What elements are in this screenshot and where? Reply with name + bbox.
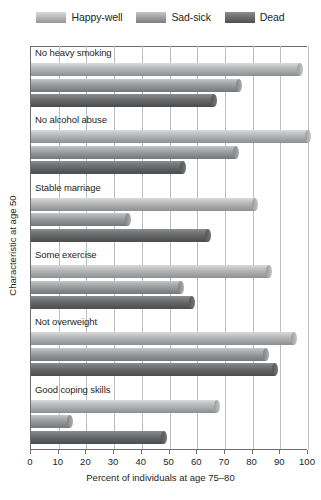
x-tick-label: 20 bbox=[80, 456, 91, 467]
bar-body bbox=[31, 281, 181, 294]
bar-end-cap bbox=[236, 79, 242, 92]
legend-swatch-icon bbox=[225, 12, 255, 23]
bar-end-cap bbox=[305, 130, 311, 143]
legend-label: Dead bbox=[260, 11, 285, 23]
x-tick-label: 90 bbox=[274, 456, 285, 467]
category-label: No heavy smoking bbox=[35, 46, 112, 60]
bar-group: Stable marriage bbox=[31, 181, 307, 248]
bar-group: No heavy smoking bbox=[31, 46, 307, 113]
bar-body bbox=[31, 130, 308, 143]
x-tick-label: 100 bbox=[299, 456, 315, 467]
bar-dead bbox=[31, 94, 214, 107]
bar-body bbox=[31, 79, 239, 92]
x-tick-mark bbox=[169, 450, 170, 454]
bar-body bbox=[31, 198, 255, 211]
bar-body bbox=[31, 348, 266, 361]
bar-body bbox=[31, 229, 208, 242]
bar-group: No alcohol abuse bbox=[31, 113, 307, 180]
x-tick-label: 70 bbox=[219, 456, 230, 467]
legend-entry-happy-well: Happy-well bbox=[36, 11, 122, 23]
bar-body bbox=[31, 63, 300, 76]
bar-body bbox=[31, 265, 269, 278]
bar-body bbox=[31, 415, 70, 428]
bar-sad-sick bbox=[31, 281, 181, 294]
bar-happy-well bbox=[31, 198, 255, 211]
bar-dead bbox=[31, 296, 192, 309]
chart-legend: Happy-well Sad-sick Dead bbox=[0, 0, 321, 34]
bar-sad-sick bbox=[31, 348, 266, 361]
bar-dead bbox=[31, 161, 183, 174]
bar-sad-sick bbox=[31, 146, 236, 159]
bar-body bbox=[31, 332, 294, 345]
x-tick-mark bbox=[279, 450, 280, 454]
bar-body bbox=[31, 213, 128, 226]
bar-sad-sick bbox=[31, 79, 239, 92]
bar-sad-sick bbox=[31, 415, 70, 428]
bar-end-cap bbox=[178, 281, 184, 294]
bar-happy-well bbox=[31, 332, 294, 345]
bar-end-cap bbox=[297, 63, 303, 76]
x-tick-label: 60 bbox=[191, 456, 202, 467]
bar-dead bbox=[31, 431, 164, 444]
legend-label: Happy-well bbox=[71, 11, 122, 23]
x-tick-mark bbox=[224, 450, 225, 454]
gridline bbox=[308, 46, 309, 450]
bar-end-cap bbox=[272, 363, 278, 376]
x-tick-mark bbox=[58, 450, 59, 454]
x-tick-mark bbox=[252, 450, 253, 454]
bar-end-cap bbox=[189, 296, 195, 309]
bar-sad-sick bbox=[31, 213, 128, 226]
bar-end-cap bbox=[125, 213, 131, 226]
bar-end-cap bbox=[180, 161, 186, 174]
bar-group: Some exercise bbox=[31, 248, 307, 315]
bar-end-cap bbox=[214, 400, 220, 413]
legend-entry-sad-sick: Sad-sick bbox=[136, 11, 210, 23]
x-tick-mark bbox=[30, 450, 31, 454]
x-tick-label: 30 bbox=[108, 456, 119, 467]
x-tick-label: 0 bbox=[27, 456, 32, 467]
legend-swatch-icon bbox=[36, 12, 66, 23]
x-axis-title: Percent of individuals at age 75–80 bbox=[0, 472, 321, 483]
x-tick-mark bbox=[85, 450, 86, 454]
bar-group: Not overweight bbox=[31, 315, 307, 382]
x-tick-label: 40 bbox=[136, 456, 147, 467]
bar-body bbox=[31, 161, 183, 174]
x-tick-mark bbox=[113, 450, 114, 454]
bar-dead bbox=[31, 363, 275, 376]
bar-body bbox=[31, 431, 164, 444]
bar-end-cap bbox=[252, 198, 258, 211]
bar-happy-well bbox=[31, 63, 300, 76]
category-label: Not overweight bbox=[35, 315, 97, 329]
legend-swatch-icon bbox=[136, 12, 166, 23]
bar-body bbox=[31, 363, 275, 376]
x-tick-mark bbox=[196, 450, 197, 454]
plot-area: No heavy smokingNo alcohol abuseStable m… bbox=[30, 46, 307, 450]
category-label: No alcohol abuse bbox=[35, 113, 107, 127]
x-tick-label: 50 bbox=[163, 456, 174, 467]
bar-end-cap bbox=[233, 146, 239, 159]
x-tick-label: 10 bbox=[52, 456, 63, 467]
bar-body bbox=[31, 94, 214, 107]
bar-body bbox=[31, 400, 217, 413]
bar-end-cap bbox=[161, 431, 167, 444]
x-tick-mark bbox=[307, 450, 308, 454]
y-axis-title: Characteristic at age 50 bbox=[7, 146, 18, 346]
bar-end-cap bbox=[205, 229, 211, 242]
bar-body bbox=[31, 146, 236, 159]
bar-end-cap bbox=[67, 415, 73, 428]
bar-end-cap bbox=[263, 348, 269, 361]
bar-end-cap bbox=[211, 94, 217, 107]
bar-dead bbox=[31, 229, 208, 242]
category-label: Some exercise bbox=[35, 248, 97, 262]
bar-happy-well bbox=[31, 130, 308, 143]
bar-group: Good coping skills bbox=[31, 383, 307, 450]
category-label: Good coping skills bbox=[35, 383, 110, 397]
x-tick-label: 80 bbox=[246, 456, 257, 467]
legend-label: Sad-sick bbox=[171, 11, 210, 23]
x-tick-mark bbox=[141, 450, 142, 454]
category-label: Stable marriage bbox=[35, 181, 101, 195]
bar-happy-well bbox=[31, 265, 269, 278]
legend-entry-dead: Dead bbox=[225, 11, 285, 23]
bar-body bbox=[31, 296, 192, 309]
bar-happy-well bbox=[31, 400, 217, 413]
